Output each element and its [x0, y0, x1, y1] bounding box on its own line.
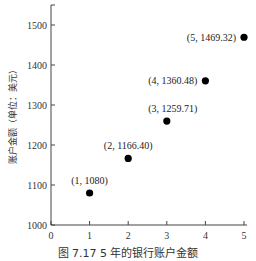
y-tick-label: 1000 — [27, 220, 47, 231]
point-label: (5, 1469.32) — [187, 32, 236, 44]
x-tick-label: 0 — [49, 230, 54, 241]
y-tick-label: 1500 — [27, 20, 47, 31]
point-label: (3, 1259.71) — [148, 103, 197, 115]
data-point — [163, 118, 170, 125]
x-tick-label: 2 — [126, 230, 131, 241]
point-label: (2, 1166.40) — [104, 140, 153, 152]
x-tick-label: 4 — [203, 230, 208, 241]
data-point — [125, 155, 132, 162]
point-label: (1, 1080) — [71, 175, 108, 187]
figure-caption: 图 7.17 5 年的银行账户金额 — [0, 244, 256, 260]
data-point — [202, 77, 209, 84]
y-axis-label: 账户金额（单位：美元） — [6, 55, 19, 175]
y-tick-label: 1200 — [27, 140, 47, 151]
point-label: (4, 1360.48) — [148, 75, 197, 87]
y-tick-label: 1100 — [27, 180, 47, 191]
x-tick-label: 3 — [164, 230, 169, 241]
data-point — [240, 34, 247, 41]
scatter-chart: 100011001200130014001500012345(1, 1080)(… — [0, 0, 256, 261]
x-tick-label: 5 — [242, 230, 247, 241]
x-tick-label: 1 — [87, 230, 92, 241]
y-tick-label: 1300 — [27, 100, 47, 111]
y-tick-label: 1400 — [27, 60, 47, 71]
data-point — [86, 189, 93, 196]
